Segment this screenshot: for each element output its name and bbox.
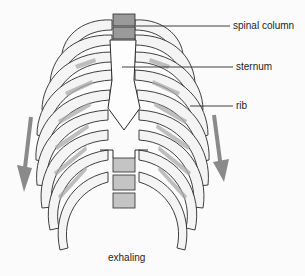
left-ribs [36, 20, 112, 250]
sternum-shape [108, 40, 140, 130]
label-sternum: sternum [236, 62, 272, 72]
rib-cage-diagram: spinal column sternum rib exhaling [0, 0, 305, 276]
caption-exhaling: exhaling [108, 253, 145, 263]
upper-vertebrae [113, 14, 135, 39]
label-rib: rib [236, 101, 247, 111]
right-ribs [135, 20, 209, 250]
left-arrow-down-icon [17, 117, 32, 192]
right-arrow-down-icon [213, 115, 229, 182]
rib-cage-illustration [0, 0, 305, 276]
label-spinal-column: spinal column [233, 21, 294, 31]
